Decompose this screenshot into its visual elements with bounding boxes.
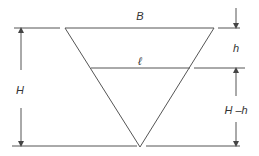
triangle-diagram: B ℓ H h H –h [0, 0, 259, 156]
label-l: ℓ [138, 56, 142, 67]
label-H-minus-h: H –h [224, 105, 247, 116]
diagram-graphics [0, 0, 259, 156]
label-H: H [16, 85, 24, 96]
label-h: h [233, 43, 239, 54]
label-B: B [136, 11, 143, 22]
inverted-triangle [65, 28, 214, 147]
